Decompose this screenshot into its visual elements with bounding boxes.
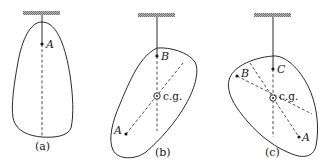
- cg-label-b: c.g.: [163, 90, 182, 102]
- point-a-label: A: [45, 38, 54, 51]
- point-b-label-c: B: [240, 67, 249, 80]
- point-a-dot-c: [297, 135, 300, 138]
- point-a-label-c: A: [301, 131, 310, 144]
- panel-a: A (a): [12, 11, 72, 153]
- panel-c: C B A c.g. (c): [228, 13, 317, 159]
- body-outline-a: [12, 22, 72, 137]
- point-c-label: C: [277, 63, 286, 76]
- cg-suspension-diagram: A (a) B A c.g. (b) C B A: [0, 0, 332, 166]
- ceiling-support-a: [23, 11, 60, 15]
- body-outline-b: [111, 48, 197, 158]
- cg-marker-icon: [154, 93, 160, 99]
- caption-b: (b): [155, 146, 171, 159]
- point-a-label-b: A: [113, 124, 122, 137]
- caption-c: (c): [265, 146, 280, 159]
- caption-a: (a): [35, 140, 50, 153]
- point-b-dot-c: [235, 74, 238, 77]
- ceiling-support-c: [254, 13, 291, 17]
- ceiling-support-b: [138, 13, 175, 17]
- point-b-label: B: [160, 50, 169, 63]
- point-a-dot-b: [124, 132, 127, 135]
- point-c-dot: [271, 67, 274, 70]
- point-b-dot: [155, 54, 158, 57]
- panel-b: B A c.g. (b): [111, 13, 197, 159]
- point-a-dot: [40, 42, 43, 45]
- cg-label-c: c.g.: [279, 90, 298, 102]
- cg-marker-icon: [270, 95, 276, 101]
